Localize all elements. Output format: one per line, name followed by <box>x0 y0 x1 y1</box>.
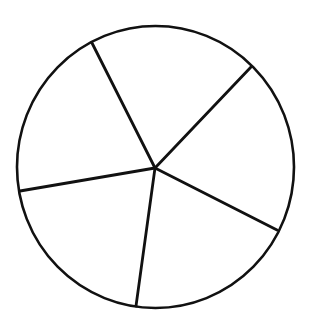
divided-circle-diagram <box>0 0 309 322</box>
hub-point <box>153 166 156 169</box>
